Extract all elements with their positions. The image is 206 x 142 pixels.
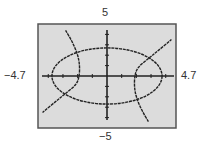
graph-plot (0, 0, 206, 142)
